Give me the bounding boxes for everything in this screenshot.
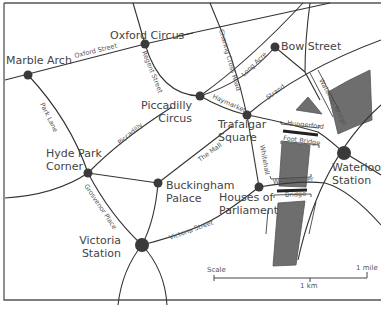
- street-label: Grosvenor Place: [82, 183, 118, 231]
- hyde-park-corner-label: Hyde ParkCorner: [46, 147, 102, 173]
- bow-street-label: Bow Street: [281, 40, 342, 53]
- street-label: Park Lane: [38, 101, 59, 133]
- oxford-circus-label: Oxford Circus: [110, 29, 185, 42]
- marble-arch-marker-icon: [24, 71, 33, 80]
- waterloo-station-label: WaterlooStation: [332, 161, 381, 187]
- place-oxford-circus: Oxford Circus: [110, 29, 185, 49]
- scale-label: Scale: [207, 266, 226, 274]
- victoria-se-road: [142, 245, 167, 305]
- street-label: The Mall: [196, 141, 224, 164]
- street-label: Long Acre: [240, 50, 269, 78]
- street-label: Victoria Street: [168, 218, 215, 242]
- street-label: Charing Cross Road: [217, 28, 242, 91]
- bridge-label: Westminster: [273, 175, 315, 186]
- place-hyde-park-corner: Hyde ParkCorner: [46, 147, 102, 178]
- buckingham-south-road: [142, 183, 158, 245]
- constitution-road: [88, 173, 158, 183]
- victoria-station-marker-icon: [135, 238, 149, 252]
- london-map: Marble ArchOxford CircusBow StreetPiccad…: [0, 0, 381, 310]
- buckingham-palace-marker-icon: [154, 179, 163, 188]
- piccadilly-circus-label: PiccadillyCircus: [141, 99, 192, 125]
- marble-arch-label: Marble Arch: [6, 54, 72, 67]
- bow-street-marker-icon: [271, 43, 280, 52]
- place-piccadilly-circus: PiccadillyCircus: [141, 92, 204, 126]
- street-label: Regent Street: [140, 50, 164, 95]
- scale-km-label: 1 km: [300, 282, 318, 290]
- victoria-sw-road: [118, 245, 142, 305]
- scale-mile-label: 1 mile: [356, 264, 378, 272]
- river-embankment-segment: [296, 97, 322, 114]
- place-bow-street: Bow Street: [271, 40, 342, 53]
- waterloo-station-marker-icon: [337, 146, 351, 160]
- scale-line: [214, 272, 367, 282]
- street-label: Whitehall: [258, 144, 271, 176]
- victoria-station-label: VictoriaStation: [79, 234, 121, 260]
- piccadilly-circus-marker-icon: [196, 92, 205, 101]
- street-label: Piccadilly: [116, 121, 144, 147]
- hyde-park-west-road: [5, 173, 88, 198]
- hyde-park-corner-marker-icon: [84, 169, 93, 178]
- place-marble-arch: Marble Arch: [6, 54, 72, 80]
- scale-bar: Scale 1 km 1 mile: [207, 264, 378, 290]
- place-trafalgar-square: TrafalgarSquare: [217, 111, 267, 145]
- houses-of-parliament-label: Houses ofParliament: [219, 191, 279, 217]
- place-victoria-station: VictoriaStation: [79, 234, 149, 260]
- bridge-label: Bridge: [285, 190, 307, 199]
- street-label: Strand: [264, 82, 286, 101]
- place-waterloo-station: WaterlooStation: [332, 146, 381, 187]
- trafalgar-square-label: TrafalgarSquare: [217, 118, 267, 144]
